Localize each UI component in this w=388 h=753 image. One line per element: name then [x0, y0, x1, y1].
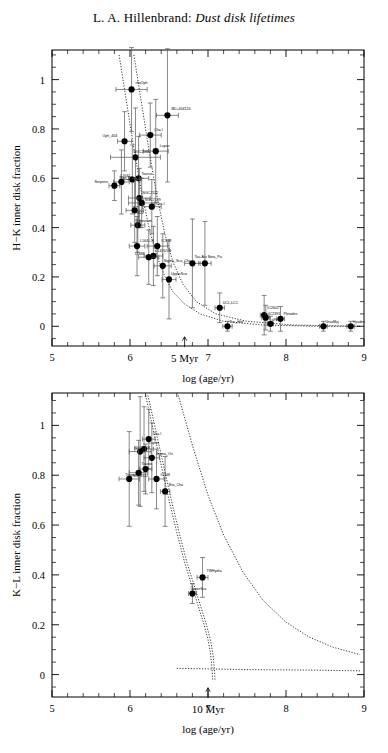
data-marker [166, 276, 172, 282]
data-point-label: UpperSco [190, 587, 206, 591]
data-point: TWHydra [197, 557, 222, 597]
annotation-label: 10 Myr [192, 703, 225, 715]
x-tick-label: 8 [283, 352, 288, 363]
data-point: Tuc_Hor [223, 320, 244, 331]
data-point-label: Tuc_Hor [230, 320, 244, 324]
data-point-label: Cha I [156, 202, 165, 206]
data-marker [153, 476, 159, 482]
data-point-label: Oph_404 [103, 134, 118, 138]
data-point: Sigma_Sco_Cha [154, 234, 191, 298]
y-axis-label: K−L inner disk fraction [10, 493, 22, 597]
y-tick-label: 0.8 [32, 470, 45, 481]
y-tick-label: 1 [40, 420, 45, 431]
data-point-label: Beta_Pic [208, 255, 223, 259]
data-point: aPer [267, 316, 280, 331]
y-tick-label: 0.8 [32, 124, 45, 135]
data-point: Cha I [142, 180, 164, 234]
data-marker [153, 148, 159, 154]
data-marker [217, 305, 223, 311]
axes-frame [52, 393, 364, 697]
x-axis-label: log (age/yr) [182, 723, 234, 736]
data-marker [162, 488, 168, 494]
data-marker [164, 112, 170, 118]
data-point-label: IC2602 [267, 306, 279, 310]
data-marker [149, 204, 155, 210]
panel-bottom-svg: 5678900.20.40.60.81Cha ILupusNGC2068Sigm… [0, 378, 388, 753]
y-tick-label: 0.4 [32, 223, 46, 234]
figure-title-subject: Dust disk lifetimes [195, 10, 295, 25]
data-point: Hyades [347, 320, 365, 331]
data-point: BD+404124 [157, 49, 191, 182]
annotation-label: 5 Myr [171, 352, 199, 364]
data-marker [111, 183, 117, 189]
data-marker [202, 260, 208, 266]
x-tick-label: 6 [127, 352, 132, 363]
y-tick-label: 0.6 [32, 173, 45, 184]
y-tick-label: 0 [40, 321, 45, 332]
data-point: UpperSco [189, 584, 207, 604]
figure: L. A. Hillenbrand: Dust disk lifetimes 5… [0, 0, 388, 753]
data-point: IC348 [147, 217, 171, 276]
model-curve-floor [177, 668, 360, 671]
data-point-label: UCL,LCC [223, 301, 239, 305]
model-curve-decay-b [134, 55, 360, 326]
data-point-label: L1688 [135, 252, 145, 256]
y-tick-label: 0 [40, 670, 45, 681]
data-point: Oph_404 [103, 112, 132, 171]
axes-frame [52, 50, 364, 346]
data-point: NGC2068 [129, 397, 151, 507]
data-point-label: Trapezium [125, 473, 142, 477]
data-point-label: NGC2112 [142, 191, 158, 195]
model-curve-slow-decay [178, 395, 360, 654]
data-point-label: Mon_R2 [119, 176, 133, 180]
data-marker [146, 254, 152, 260]
data-point-label: Hyades [353, 320, 365, 324]
model-curve-decay-a [146, 395, 213, 679]
data-point-label: NGC2068 [134, 446, 150, 450]
y-tick-label: 0.6 [32, 520, 45, 531]
panel-top-svg: 5678900.20.40.60.81rhoOphBD+404124Cha IO… [0, 34, 388, 394]
data-marker [121, 138, 127, 144]
data-marker [134, 243, 140, 249]
x-tick-label: 6 [127, 703, 132, 714]
data-marker [160, 263, 166, 269]
data-marker [199, 574, 205, 580]
data-marker [189, 590, 195, 596]
figure-title-author: L. A. Hillenbrand: [93, 10, 192, 25]
data-point: Pleiades [277, 307, 298, 332]
data-point-label: Serpens [94, 180, 108, 184]
x-tick-label: 8 [283, 703, 288, 714]
data-point-label: L1641-N [140, 239, 154, 243]
data-point-label: UrsaMaj [325, 320, 339, 324]
model-curve-decay-b [148, 395, 215, 679]
data-point-label: Sigma_Ori [156, 452, 173, 456]
data-point-label: Tau-Aur [194, 255, 207, 259]
y-tick-label: 1 [40, 75, 45, 86]
x-tick-label: 5 [49, 352, 54, 363]
data-point: rhoOph [116, 48, 148, 132]
y-tick-label: 0.2 [32, 272, 45, 283]
data-point-label: Lupus [160, 144, 170, 148]
panel-top: 5678900.20.40.60.81rhoOphBD+404124Cha IO… [0, 34, 388, 394]
data-marker [189, 260, 195, 266]
data-point-label: Sigma_Sco_Cha [164, 259, 191, 263]
data-point-label: Cha I [153, 432, 162, 436]
data-point-label: NGC2068 [133, 150, 149, 154]
data-point-label: UpperSco [171, 272, 187, 276]
data-point-label: Taurus [142, 172, 153, 176]
data-point-label: aPer [271, 318, 279, 322]
x-tick-label: 9 [361, 352, 366, 363]
y-tick-label: 0.4 [32, 570, 46, 581]
x-tick-label: 9 [361, 703, 366, 714]
y-axis-label: H−K inner disk fraction [10, 145, 22, 251]
data-point-label: IC2391 [269, 312, 281, 316]
x-tick-label: 7 [205, 352, 210, 363]
data-point-label: Taurus [142, 462, 153, 466]
panel-bottom: 5678900.20.40.60.81Cha ILupusNGC2068Sigm… [0, 378, 388, 753]
data-marker [149, 455, 155, 461]
data-point-label: Eta_Cha [169, 483, 183, 487]
y-tick-label: 0.2 [32, 620, 45, 631]
data-marker [147, 132, 153, 138]
data-point: Mon_R2 [114, 150, 133, 214]
data-point-label: rhoOph [136, 81, 148, 85]
